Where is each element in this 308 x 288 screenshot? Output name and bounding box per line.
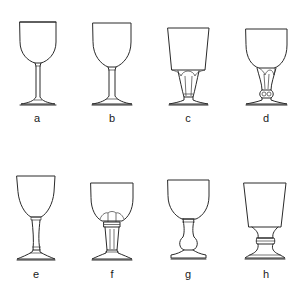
glass-label-d: d: [263, 112, 269, 124]
glass-label-f: f: [110, 268, 114, 280]
glass-a-drawing: [20, 22, 56, 105]
glass-d-drawing: [246, 29, 287, 105]
glass-f-drawing: [91, 183, 133, 260]
glass-e-drawing: [17, 176, 55, 260]
glass-label-g: g: [185, 268, 191, 280]
glass-label-h: h: [263, 268, 269, 280]
glass-label-a: a: [34, 112, 41, 124]
glass-c-drawing: [168, 28, 209, 105]
glass-label-e: e: [33, 268, 39, 280]
glassware-diagram: a b c d: [0, 0, 308, 288]
glass-g-drawing: [168, 180, 209, 259]
glass-label-b: b: [109, 112, 115, 124]
glass-b-drawing: [92, 23, 132, 105]
glass-label-c: c: [185, 112, 191, 124]
glass-h-drawing: [244, 183, 286, 259]
